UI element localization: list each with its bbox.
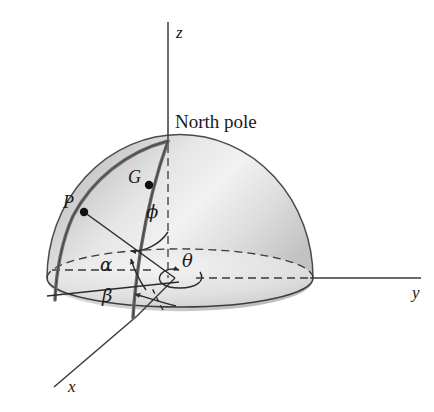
point-p-label: P — [63, 193, 74, 211]
x-axis-line — [54, 316, 137, 387]
alpha-angle-label: α — [100, 256, 112, 274]
point-g-label: G — [128, 168, 141, 186]
z-axis-label: z — [176, 24, 183, 41]
y-axis-label: y — [412, 284, 420, 301]
figure-canvas: z y x North pole P G ϕ θ α β — [0, 0, 434, 412]
beta-angle-label: β — [102, 287, 112, 305]
point-p-dot — [80, 208, 88, 216]
point-g-dot — [145, 181, 153, 189]
hemisphere-body — [47, 135, 313, 312]
theta-angle-label: θ — [182, 252, 193, 270]
north-pole-label: North pole — [175, 112, 257, 131]
x-axis-label: x — [68, 378, 76, 395]
phi-angle-label: ϕ — [146, 203, 158, 221]
